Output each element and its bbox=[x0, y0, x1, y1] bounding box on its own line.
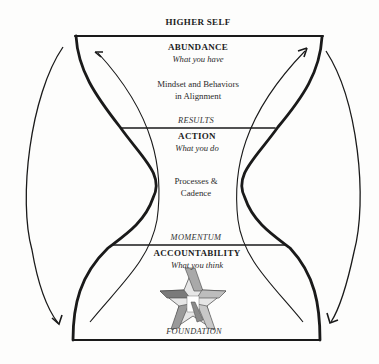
abundance-body-line1: Mindset and Behaviors bbox=[157, 78, 239, 90]
momentum-boundary-label: MOMENTUM bbox=[171, 233, 222, 242]
outer-left-arrow bbox=[26, 47, 63, 323]
inner-left-arrowhead-icon bbox=[95, 52, 103, 57]
right-hourglass-curve bbox=[242, 37, 322, 340]
abundance-body-line2: in Alignment bbox=[175, 90, 221, 102]
action-body-line2: Cadence bbox=[181, 187, 211, 199]
higher-self-label: HIGHER SELF bbox=[165, 17, 230, 27]
inner-left-arrow bbox=[90, 53, 159, 322]
abundance-title: ABUNDANCE bbox=[168, 42, 228, 52]
outer-right-arrowhead-icon bbox=[327, 313, 338, 323]
accountability-title: ACCOUNTABILITY bbox=[153, 248, 240, 258]
hourglass-diagram: HIGHER SELF ABUNDANCE What you have Mind… bbox=[0, 0, 379, 364]
inner-right-arrow bbox=[237, 51, 305, 322]
accountability-subtitle: What you think bbox=[171, 260, 223, 270]
abundance-subtitle: What you have bbox=[172, 54, 223, 64]
action-title: ACTION bbox=[178, 131, 216, 141]
left-hourglass-curve bbox=[73, 36, 156, 340]
star-logo-icon bbox=[160, 268, 226, 330]
action-subtitle: What you do bbox=[175, 143, 218, 153]
outer-right-arrow bbox=[326, 51, 360, 322]
results-boundary-label: RESULTS bbox=[178, 116, 214, 125]
inner-right-arrowhead-icon bbox=[298, 48, 307, 57]
action-body-line1: Processes & bbox=[174, 175, 217, 187]
foundation-boundary-label: FOUNDATION bbox=[166, 327, 222, 336]
